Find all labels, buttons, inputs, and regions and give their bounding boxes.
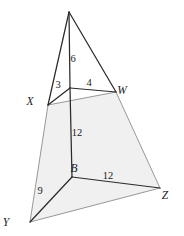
measurement-label-pa: 6 (70, 53, 75, 64)
measurement-label-by: 9 (37, 185, 42, 196)
geometry-canvas: 63412129 XWBYZ (0, 0, 184, 236)
edge-a-w (70, 88, 116, 92)
vertex-label-y: Y (3, 216, 11, 228)
vertex-label-x: X (25, 95, 34, 107)
vertex-label-b: B (70, 162, 77, 174)
measurement-label-aw: 4 (86, 77, 92, 88)
edge-p-a (69, 12, 70, 88)
vertex-label-z: Z (162, 189, 169, 201)
measurement-label-ab: 12 (72, 127, 83, 138)
measurement-label-ax: 3 (55, 79, 60, 90)
vertex-label-w: W (117, 84, 128, 96)
shaded-base-quadrilateral (30, 92, 160, 222)
measurement-label-bz: 12 (103, 170, 114, 181)
edge-p-w (69, 12, 116, 92)
geometry-figure: 63412129 XWBYZ (0, 0, 184, 236)
